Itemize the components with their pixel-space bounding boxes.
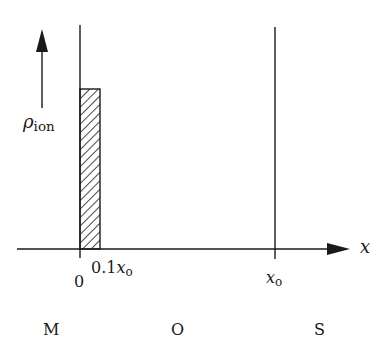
tick-label-charge-edge: 0.1xo (91, 258, 133, 277)
tick-label-oxide-edge: xo (266, 268, 282, 287)
rho-ion-arrow-icon (36, 29, 48, 108)
x-axis-label: x (360, 236, 370, 257)
ion-charge-sheet (80, 89, 100, 249)
mos-diagram (0, 0, 392, 359)
tick-label-origin: 0 (74, 272, 84, 291)
region-label-metal: M (43, 320, 59, 339)
region-label-semiconductor: S (314, 320, 325, 339)
x-axis-arrow-icon (17, 243, 350, 255)
y-axis-label: ρion (23, 111, 55, 132)
region-label-oxide: O (171, 320, 184, 339)
